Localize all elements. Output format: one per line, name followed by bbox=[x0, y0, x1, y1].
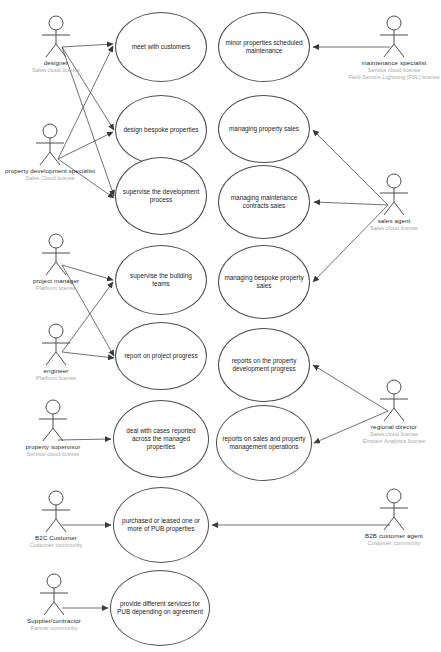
actor-supplier-contractor[interactable]: Supplier/contractor Partner community bbox=[8, 572, 100, 632]
actor-license: Service cloud license bbox=[7, 451, 99, 458]
stick-figure-icon bbox=[34, 232, 78, 276]
use-case-reports-on-the-property-development-progress[interactable]: reports on the property development prog… bbox=[218, 328, 310, 402]
actor-label: designer bbox=[10, 59, 102, 66]
actor-property-development-specialist[interactable]: property development specialist Sales Cl… bbox=[4, 122, 96, 182]
actor-license: Sales cloud license Einstein Analytics l… bbox=[348, 431, 440, 444]
actor-label: Supplier/contractor bbox=[8, 617, 100, 624]
use-case-managing-bespoke-property-sales[interactable]: managing bespoke property sales bbox=[218, 245, 310, 319]
stick-figure-icon bbox=[34, 489, 78, 533]
use-case-label: design bespoke properties bbox=[118, 126, 205, 134]
use-case-label: supervise the building teams bbox=[115, 272, 207, 288]
actor-label: property development specialist bbox=[4, 167, 96, 174]
stick-figure-icon bbox=[372, 14, 416, 58]
use-case-report-on-project-progress[interactable]: report on project progress bbox=[115, 322, 207, 390]
actor-label: sales agent bbox=[348, 217, 440, 224]
use-case-supervise-the-development-process[interactable]: supervise the development process bbox=[115, 157, 207, 235]
use-case-label: meet with customers bbox=[126, 43, 197, 51]
use-case-label: managing maintenance contracts sales bbox=[218, 194, 310, 210]
use-case-label: minor properties scheduled maintenance bbox=[218, 39, 310, 55]
actor-designer[interactable]: designer Sales cloud license bbox=[10, 14, 102, 74]
use-case-purchased-or-leased[interactable]: purchased or leased one or more of PUB p… bbox=[113, 487, 209, 563]
actor-license: Service cloud license Field Service Ligh… bbox=[348, 67, 440, 80]
actor-regional-director[interactable]: regional director Sales cloud license Ei… bbox=[348, 378, 440, 444]
actor-b2b-customer-agent[interactable]: B2B customer agent Customer community bbox=[348, 487, 440, 547]
stick-figure-icon bbox=[31, 398, 75, 442]
actor-license: Platform license bbox=[10, 285, 102, 292]
actor-license: Platform license bbox=[10, 375, 102, 382]
use-case-managing-maintenance-contracts-sales[interactable]: managing maintenance contracts sales bbox=[218, 165, 310, 239]
stick-figure-icon bbox=[34, 14, 78, 58]
use-case-label: reports on sales and property management… bbox=[216, 435, 312, 451]
use-case-diagram: designer Sales cloud license property de… bbox=[0, 0, 441, 652]
use-case-supervise-the-building-teams[interactable]: supervise the building teams bbox=[115, 245, 207, 315]
use-case-meet-with-customers[interactable]: meet with customers bbox=[115, 12, 207, 82]
actor-license: Sales cloud license bbox=[348, 225, 440, 232]
actor-engineer[interactable]: engineer Platform license bbox=[10, 322, 102, 382]
use-case-label: managing bespoke property sales bbox=[218, 274, 310, 290]
actor-sales-agent[interactable]: sales agent Sales cloud license bbox=[348, 172, 440, 232]
use-case-minor-properties-scheduled-maintenance[interactable]: minor properties scheduled maintenance bbox=[218, 12, 310, 82]
actor-maintenance-specialist[interactable]: maintenance specialist Service cloud lic… bbox=[348, 14, 440, 80]
actor-license: Partner community bbox=[8, 625, 100, 632]
stick-figure-icon bbox=[28, 122, 72, 166]
stick-figure-icon bbox=[372, 378, 416, 422]
use-case-label: reports on the property development prog… bbox=[218, 357, 310, 373]
use-case-label: provide different services for PUB depen… bbox=[110, 600, 210, 616]
actor-label: B2B customer agent bbox=[348, 532, 440, 539]
use-case-label: managing property sales bbox=[223, 125, 305, 133]
use-case-design-bespoke-properties[interactable]: design bespoke properties bbox=[115, 95, 207, 165]
stick-figure-icon bbox=[372, 487, 416, 531]
actor-license: Customer community bbox=[348, 540, 440, 547]
use-case-deal-with-cases[interactable]: deal with cases reported across the mana… bbox=[113, 400, 209, 478]
actor-label: engineer bbox=[10, 367, 102, 374]
stick-figure-icon bbox=[32, 572, 76, 616]
actor-license: Sales Cloud license bbox=[4, 175, 96, 182]
actor-project-manager[interactable]: project manager Platform license bbox=[10, 232, 102, 292]
use-case-provide-different-services[interactable]: provide different services for PUB depen… bbox=[110, 570, 210, 646]
use-case-label: deal with cases reported across the mana… bbox=[113, 427, 209, 452]
use-case-label: purchased or leased one or more of PUB p… bbox=[113, 517, 209, 533]
actor-label: maintenance specialist bbox=[348, 59, 440, 66]
actor-license: Customer community bbox=[10, 542, 102, 549]
actor-label: project manager bbox=[10, 277, 102, 284]
actor-label: B2C Customer bbox=[10, 534, 102, 541]
stick-figure-icon bbox=[372, 172, 416, 216]
actor-license: Sales cloud license bbox=[10, 67, 102, 74]
use-case-label: report on project progress bbox=[118, 352, 203, 360]
actor-b2c-customer[interactable]: B2C Customer Customer community bbox=[10, 489, 102, 549]
stick-figure-icon bbox=[34, 322, 78, 366]
actor-label: property supervisor bbox=[7, 443, 99, 450]
actor-label: regional director bbox=[348, 423, 440, 430]
actor-property-supervisor[interactable]: property supervisor Service cloud licens… bbox=[7, 398, 99, 458]
use-case-reports-on-sales-and-property-management-operations[interactable]: reports on sales and property management… bbox=[216, 405, 312, 481]
use-case-managing-property-sales[interactable]: managing property sales bbox=[218, 95, 310, 163]
use-case-label: supervise the development process bbox=[115, 188, 207, 204]
